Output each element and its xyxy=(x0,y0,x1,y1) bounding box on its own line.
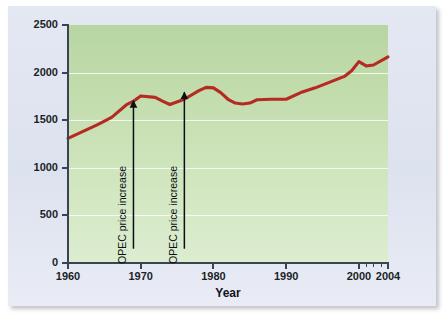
x-axis-tick xyxy=(140,264,142,269)
x-axis-tick xyxy=(67,264,69,269)
y-axis-tick-label: 2000 xyxy=(22,66,58,78)
y-axis-tick-label: 2500 xyxy=(22,18,58,30)
x-axis-minor-tick xyxy=(366,264,367,267)
x-axis-tick-label: 1960 xyxy=(56,270,80,282)
x-axis-tick xyxy=(387,264,389,269)
x-axis-tick xyxy=(212,264,214,269)
annotation-label-2: OPEC price increase xyxy=(167,166,179,264)
y-axis-tick xyxy=(62,167,67,169)
y-axis-tick-label: 1500 xyxy=(22,113,58,125)
x-axis-tick xyxy=(285,264,287,269)
x-axis-minor-tick xyxy=(373,264,374,267)
y-axis-tick xyxy=(62,72,67,74)
y-axis-tick xyxy=(62,24,67,26)
x-axis-label: Year xyxy=(215,286,240,300)
y-axis-line xyxy=(67,24,69,264)
x-axis-tick xyxy=(358,264,360,269)
x-axis-tick-label: 1990 xyxy=(274,270,298,282)
x-axis-tick-label: 2000 xyxy=(347,270,371,282)
x-axis-minor-tick xyxy=(381,264,382,267)
annotation-label-1: OPEC price increase xyxy=(116,166,128,264)
x-axis-tick-label: 1970 xyxy=(128,270,152,282)
y-axis-tick-label: 0 xyxy=(22,256,58,268)
y-axis-tick xyxy=(62,119,67,121)
y-axis-tick-label: 1000 xyxy=(22,161,58,173)
x-axis-tick-label: 1980 xyxy=(201,270,225,282)
y-axis-tick-label: 500 xyxy=(22,208,58,220)
chart-screenshot: Million metric tons of oil equivalent 05… xyxy=(0,0,448,318)
y-axis-tick xyxy=(62,214,67,216)
x-axis-tick-label: 2004 xyxy=(376,270,400,282)
